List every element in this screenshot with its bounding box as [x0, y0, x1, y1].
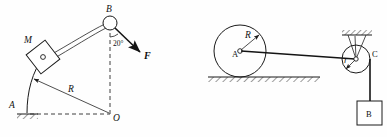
mechanics-figure: B A O M R F 20° [0, 0, 387, 137]
label-point-o: O [113, 113, 120, 123]
label-wheel-center-a: A [232, 49, 239, 59]
ground-line-right [208, 77, 320, 82]
label-wheel-radius-r: R [244, 30, 251, 40]
label-force-f: F [143, 50, 151, 61]
roller-at-b [103, 16, 117, 30]
connecting-rod [241, 51, 355, 59]
label-point-b: B [106, 4, 112, 14]
block-m-pin [41, 55, 46, 60]
label-point-a: A [8, 100, 15, 110]
label-block-b: B [366, 109, 372, 119]
label-block-m: M [23, 35, 33, 45]
ceiling-support [342, 30, 372, 35]
right-panel-group: A R r C B [208, 25, 382, 125]
ground-support-a [17, 114, 38, 119]
label-angle-20: 20° [113, 39, 124, 48]
angle-arc-20 [110, 34, 118, 37]
figure-canvas: B A O M R F 20° [0, 0, 387, 137]
label-radius-r: R [67, 84, 74, 94]
left-panel-group: B A O M R F 20° [8, 4, 151, 123]
label-pulley-c: C [372, 49, 378, 59]
label-pulley-radius-r: r [344, 55, 348, 65]
